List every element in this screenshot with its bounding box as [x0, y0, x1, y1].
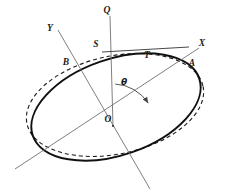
axis-x-label: X: [198, 38, 206, 48]
figure-canvas: X Y Q A B S T O θ: [0, 0, 232, 192]
point-b-label: B: [62, 57, 69, 67]
point-s-label: S: [93, 39, 98, 49]
axis-y-label: Y: [47, 23, 54, 33]
axis-x-line: [15, 48, 199, 169]
angle-theta-label: θ: [121, 77, 127, 87]
point-t-label: T: [144, 50, 151, 60]
point-a-label: A: [188, 58, 195, 68]
point-q-label: Q: [104, 5, 111, 15]
point-marker-o: [112, 125, 114, 127]
origin-label: O: [105, 114, 112, 124]
geometry-diagram-svg: X Y Q A B S T O θ: [0, 0, 232, 192]
vertical-line-to-q: [110, 16, 113, 126]
